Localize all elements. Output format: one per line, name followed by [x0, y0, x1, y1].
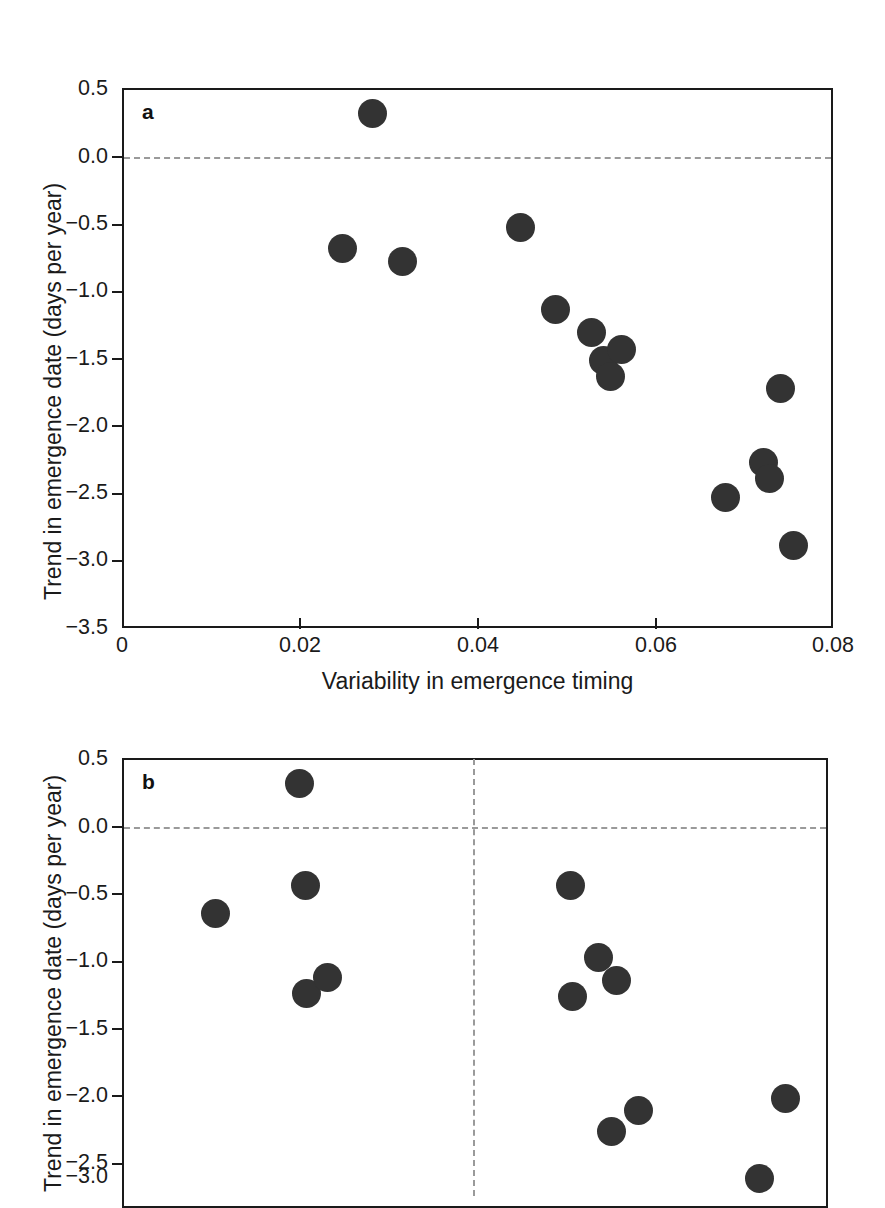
panel-b-ytick-label: −3.0 — [36, 1166, 108, 1188]
panel-a-ytick-label: −3.0 — [36, 549, 108, 571]
data-point — [602, 966, 631, 995]
panel-a-xtick-label: 0 — [82, 635, 162, 657]
panel-b-ytick-label: 0.0 — [36, 816, 108, 838]
panel-a-ytick-mark — [112, 560, 123, 562]
panel-b-ytick-label: −1.0 — [36, 950, 108, 972]
panel-a-ytick-mark — [112, 291, 123, 293]
data-point — [624, 1096, 653, 1125]
panel-b-ytick-mark — [112, 961, 123, 963]
data-point — [313, 963, 342, 992]
panel-a-ytick-label: −1.5 — [36, 348, 108, 370]
panel-a-ytick-label: 0.5 — [36, 78, 108, 100]
panel-b-ytick-mark — [112, 893, 123, 895]
panel-a-xtick-label: 0.04 — [438, 635, 518, 657]
panel-a-y-axis-title: Trend in emergence date (days per year) — [40, 183, 67, 600]
data-point — [779, 531, 808, 560]
data-point — [285, 769, 314, 798]
data-point — [596, 362, 625, 391]
panel-a-ytick-mark — [112, 224, 123, 226]
data-point — [755, 464, 784, 493]
data-point — [711, 483, 740, 512]
panel-a-points-layer — [124, 90, 831, 626]
data-point — [597, 1117, 626, 1146]
data-point — [328, 234, 357, 263]
data-point — [556, 871, 585, 900]
panel-a-ytick-label: −2.0 — [36, 415, 108, 437]
panel-b-ytick-mark — [112, 1095, 123, 1097]
data-point — [771, 1084, 800, 1113]
panel-b-ytick-mark — [112, 1163, 123, 1165]
panel-a-xtick-label: 0.06 — [616, 635, 696, 657]
data-point — [607, 335, 636, 364]
panel-b-ytick-label: −2.0 — [36, 1085, 108, 1107]
data-point — [291, 871, 320, 900]
data-point — [388, 247, 417, 276]
panel-a-xtick-label: 0.08 — [793, 635, 873, 657]
data-point — [558, 982, 587, 1011]
data-point — [358, 99, 387, 128]
panel-a-ytick-label: 0.0 — [36, 146, 108, 168]
panel-b-ytick-label: −1.5 — [36, 1018, 108, 1040]
data-point — [577, 318, 606, 347]
panel-a-ytick-label: −0.5 — [36, 213, 108, 235]
panel-b-ytick-mark — [112, 826, 123, 828]
data-point — [745, 1164, 774, 1193]
panel-b-ytick-mark — [112, 1028, 123, 1030]
panel-a-ytick-mark — [112, 156, 123, 158]
panel-b: Trend in emergence date (days per year) … — [0, 700, 885, 1196]
data-point — [506, 213, 535, 242]
panel-a-x-axis-title: Variability in emergence timing — [122, 668, 833, 695]
panel-a: Trend in emergence date (days per year) … — [0, 0, 885, 700]
panel-a-ytick-label: −1.0 — [36, 280, 108, 302]
panel-a-ytick-mark — [112, 358, 123, 360]
data-point — [201, 899, 230, 928]
panel-b-ytick-label: 0.5 — [36, 748, 108, 770]
data-point — [541, 295, 570, 324]
panel-a-ytick-mark — [112, 425, 123, 427]
panel-a-ytick-label: −2.5 — [36, 482, 108, 504]
data-point — [766, 374, 795, 403]
panel-a-ytick-mark — [112, 493, 123, 495]
panel-b-ytick-label: −0.5 — [36, 883, 108, 905]
panel-a-xtick-label: 0.02 — [260, 635, 340, 657]
panel-b-points-layer — [124, 760, 826, 1196]
